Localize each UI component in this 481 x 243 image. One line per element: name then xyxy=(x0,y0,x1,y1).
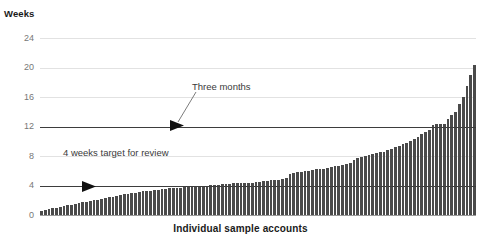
y-tick-label-4: 4 xyxy=(4,181,34,190)
bar xyxy=(130,193,133,215)
x-axis-baseline xyxy=(40,215,476,216)
bar xyxy=(55,208,58,215)
bar xyxy=(89,201,92,215)
bar xyxy=(240,183,243,215)
bar xyxy=(63,206,66,215)
bar xyxy=(409,141,412,215)
bar xyxy=(255,182,258,215)
bar xyxy=(123,194,126,215)
bar xyxy=(217,185,220,215)
bar xyxy=(104,198,107,215)
bar xyxy=(341,165,344,215)
bar xyxy=(100,199,103,215)
bar xyxy=(458,104,461,215)
bar xyxy=(225,184,228,215)
bar xyxy=(78,203,81,215)
bar xyxy=(172,188,175,215)
bar xyxy=(168,188,171,215)
bar xyxy=(466,86,469,215)
bar xyxy=(337,166,340,215)
bar xyxy=(127,194,130,215)
y-tick-label-20: 20 xyxy=(4,63,34,72)
bar xyxy=(315,169,318,215)
plot-area xyxy=(40,38,476,215)
y-tick-label-12: 12 xyxy=(4,122,34,131)
bar xyxy=(179,188,182,215)
bar xyxy=(213,185,216,215)
bar xyxy=(473,65,476,215)
bar xyxy=(353,160,356,215)
bar xyxy=(161,189,164,215)
weeks-to-process-bar-chart: Weeks 04812162024 Three months 4 weeks t… xyxy=(0,0,481,243)
bar xyxy=(115,196,118,215)
bar xyxy=(462,97,465,215)
bar xyxy=(119,195,122,215)
bar xyxy=(383,152,386,215)
bar xyxy=(285,178,288,215)
y-tick-label-16: 16 xyxy=(4,93,34,102)
bar xyxy=(164,189,167,215)
bar xyxy=(66,205,69,215)
bar xyxy=(398,146,401,215)
bar xyxy=(228,184,231,215)
bar xyxy=(93,200,96,215)
bar xyxy=(424,132,427,215)
bar xyxy=(402,144,405,215)
y-tick-label-24: 24 xyxy=(4,34,34,43)
bar xyxy=(243,183,246,215)
bar xyxy=(44,210,47,215)
bar xyxy=(145,191,148,215)
bar xyxy=(247,183,250,215)
bar xyxy=(48,209,51,215)
reference-line-three-months xyxy=(40,127,476,128)
bar xyxy=(432,125,435,215)
bar xyxy=(149,191,152,215)
bar xyxy=(198,186,201,216)
y-axis-title: Weeks xyxy=(4,8,34,19)
bar xyxy=(420,134,423,215)
bar xyxy=(191,186,194,215)
bar xyxy=(157,190,160,215)
bar xyxy=(296,172,299,215)
y-axis-tick-labels: 04812162024 xyxy=(0,38,34,215)
bar xyxy=(202,186,205,216)
bar xyxy=(74,204,77,215)
bar xyxy=(142,191,145,215)
bar xyxy=(326,168,329,215)
bar xyxy=(108,197,111,215)
bar xyxy=(443,124,446,215)
bar xyxy=(236,183,239,215)
bar xyxy=(289,174,292,215)
bar xyxy=(304,171,307,215)
y-tick-label-8: 8 xyxy=(4,152,34,161)
bar xyxy=(300,172,303,216)
reference-line-four-weeks-target xyxy=(40,186,476,187)
bar xyxy=(417,137,420,215)
bar xyxy=(153,190,156,215)
bar xyxy=(322,169,325,215)
bar xyxy=(194,186,197,215)
bar xyxy=(447,119,450,215)
bar xyxy=(85,202,88,215)
bar xyxy=(232,183,235,215)
bar xyxy=(51,208,54,215)
bar xyxy=(334,166,337,215)
bar xyxy=(70,205,73,215)
bar xyxy=(469,75,472,215)
bar xyxy=(428,130,431,215)
bar xyxy=(319,169,322,215)
bar xyxy=(281,179,284,215)
y-tick-label-0: 0 xyxy=(4,211,34,220)
bar xyxy=(349,163,352,215)
bar xyxy=(356,158,359,215)
bar xyxy=(375,153,378,215)
bar xyxy=(209,185,212,215)
bar xyxy=(251,183,254,215)
bar xyxy=(405,143,408,215)
bar xyxy=(311,170,314,215)
bar xyxy=(81,202,84,215)
bar xyxy=(221,184,224,215)
bar xyxy=(59,207,62,215)
bar xyxy=(258,182,261,215)
bar xyxy=(386,150,389,215)
